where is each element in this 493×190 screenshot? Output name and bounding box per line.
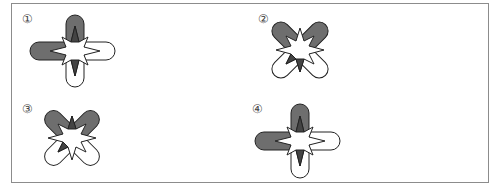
option-2-figure-icon bbox=[260, 10, 340, 90]
option-4-figure-icon bbox=[255, 101, 345, 181]
option-3-figure-icon bbox=[32, 98, 112, 178]
option-1-figure-icon bbox=[30, 11, 120, 91]
